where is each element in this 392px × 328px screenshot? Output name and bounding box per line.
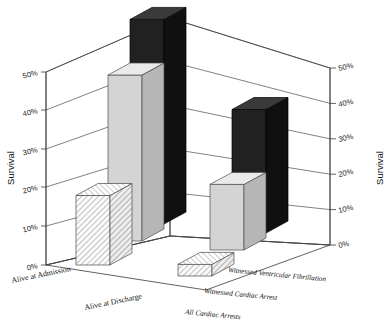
y-axis-right-tick-0: 0% (337, 239, 350, 250)
bar-admission-all-arrests[interactable] (76, 184, 132, 266)
front-label-discharge: Alive at Discharge (84, 291, 143, 312)
y-axis-left-tick-10: 10% (22, 222, 39, 234)
y-axis-right-tick-50: 50% (337, 61, 354, 73)
y-axis-right-tick-20: 20% (337, 167, 354, 179)
bar-discharge-witnessed-arrest[interactable] (210, 172, 266, 250)
y-axis-right: 50% 40% 30% 20% 10% 0% Survival (330, 61, 385, 250)
y-axis-left: 50% 40% 30% 20% 10% 0% Survival (5, 68, 46, 272)
y-axis-left-tick-40: 40% (22, 106, 39, 118)
y-axis-right-tick-30: 30% (337, 132, 354, 144)
y-axis-left-tick-20: 20% (22, 183, 39, 195)
bar-discharge-all-arrests[interactable] (178, 252, 234, 276)
y-axis-right-title: Survival (374, 151, 385, 185)
category-labels-front: Alive at Admission Alive at Discharge (11, 264, 143, 312)
y-axis-right-tick-40: 40% (337, 97, 354, 109)
depth-label-witnessed-arrest: Witnessed Cardiac Arrest (204, 287, 279, 302)
front-label-admission: Alive at Admission (11, 264, 72, 285)
bar-chart-3d: 50% 40% 30% 20% 10% 0% Survival 50% 40% … (0, 0, 392, 328)
y-axis-left-tick-30: 30% (22, 145, 39, 157)
chart-container: 50% 40% 30% 20% 10% 0% Survival 50% 40% … (0, 0, 392, 328)
depth-label-vfib: Witnessed Ventricular Fibrillation (228, 266, 327, 283)
y-axis-left-title: Survival (5, 151, 16, 185)
depth-label-all-arrests: All Cardiac Arrests (184, 308, 241, 321)
y-axis-right-tick-10: 10% (337, 203, 354, 215)
y-axis-left-tick-50: 50% (22, 68, 39, 80)
